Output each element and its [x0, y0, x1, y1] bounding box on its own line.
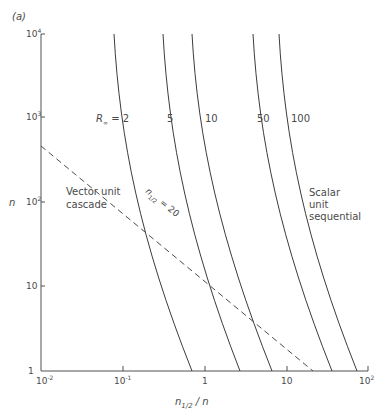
- vector-unit-annotation: Vector unit cascade: [66, 186, 120, 210]
- svg-text:Scalar: Scalar: [309, 187, 341, 198]
- y-axis-label: n: [9, 197, 15, 208]
- scalar-unit-annotation: Scalar unit sequential: [309, 187, 361, 222]
- curve-r10: [192, 34, 272, 371]
- svg-text:1: 1: [202, 376, 208, 386]
- label-r5: 5: [167, 113, 173, 124]
- label-r100: 100: [291, 113, 310, 124]
- label-r10: 10: [205, 113, 218, 124]
- chart: (a) 104 103 102 10 1 n 10-2 10-1 1 10 10…: [0, 0, 383, 416]
- svg-text:10: 10: [281, 376, 293, 386]
- curve-r5: [163, 34, 240, 371]
- dashed-label: n1/2 = 20: [142, 186, 181, 221]
- label-r50: 50: [257, 113, 270, 124]
- svg-text:10-2: 10-2: [36, 374, 54, 386]
- svg-text:102: 102: [359, 374, 374, 386]
- curve-labels: R∞ = 2 5 10 50 100: [96, 113, 310, 126]
- label-r2: R∞ = 2: [96, 113, 129, 126]
- y-tick-labels: 104 103 102 10 1: [26, 27, 41, 376]
- svg-text:103: 103: [26, 110, 41, 122]
- svg-text:1: 1: [28, 366, 34, 376]
- svg-text:104: 104: [26, 27, 41, 39]
- svg-text:10: 10: [26, 281, 38, 291]
- x-tick-labels: 10-2 10-1 1 10 102: [36, 374, 374, 386]
- svg-text:unit: unit: [309, 199, 328, 210]
- svg-text:sequential: sequential: [309, 211, 361, 222]
- x-axis-label: n1/2 / n: [175, 396, 209, 410]
- svg-text:cascade: cascade: [66, 199, 107, 210]
- svg-text:102: 102: [26, 195, 41, 207]
- svg-text:10-1: 10-1: [114, 374, 132, 386]
- panel-label: (a): [12, 11, 26, 22]
- svg-text:Vector unit: Vector unit: [66, 186, 120, 197]
